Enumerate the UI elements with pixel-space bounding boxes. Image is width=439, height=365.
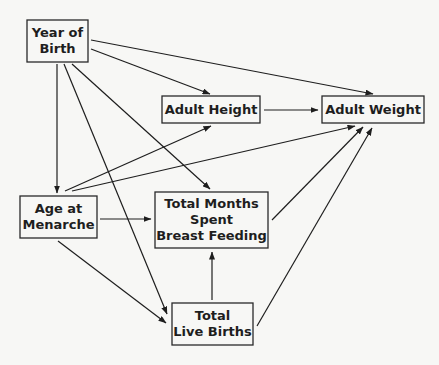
edges bbox=[57, 40, 373, 326]
node-label: Live Births bbox=[173, 324, 252, 339]
arrow-year-of-birth-to-adult-height bbox=[91, 49, 210, 94]
node-label: Menarche bbox=[23, 217, 95, 232]
arrow-age-at-menarche-to-live-births bbox=[58, 241, 166, 323]
arrow-age-at-menarche-to-adult-weight bbox=[72, 126, 355, 191]
node-label: Year of bbox=[31, 25, 84, 40]
node-label: Total bbox=[195, 308, 231, 323]
node-label: Breast Feeding bbox=[156, 228, 267, 243]
node-label: Age at bbox=[35, 201, 83, 216]
path-diagram: Year ofBirthAdult HeightAdult WeightAge … bbox=[0, 0, 439, 365]
nodes: Year ofBirthAdult HeightAdult WeightAge … bbox=[20, 20, 424, 345]
node-months-breast-feeding: Total MonthsSpentBreast Feeding bbox=[155, 192, 268, 248]
node-live-births: TotalLive Births bbox=[172, 303, 253, 345]
node-adult-height: Adult Height bbox=[162, 96, 260, 123]
arrow-months-breast-feeding-to-adult-weight bbox=[272, 127, 363, 220]
node-label: Spent bbox=[190, 212, 233, 227]
arrow-year-of-birth-to-adult-weight bbox=[91, 40, 373, 94]
arrow-year-of-birth-to-months-breast-feeding bbox=[72, 64, 210, 189]
node-age-at-menarche: Age atMenarche bbox=[20, 196, 97, 238]
node-label: Adult Height bbox=[165, 102, 258, 117]
arrow-live-births-to-adult-weight bbox=[257, 128, 372, 326]
arrow-age-at-menarche-to-adult-height bbox=[65, 126, 211, 191]
node-label: Total Months bbox=[164, 196, 259, 211]
node-label: Birth bbox=[39, 41, 75, 56]
node-adult-weight: Adult Weight bbox=[322, 96, 424, 123]
node-year-of-birth: Year ofBirth bbox=[27, 20, 88, 62]
node-label: Adult Weight bbox=[325, 102, 421, 117]
